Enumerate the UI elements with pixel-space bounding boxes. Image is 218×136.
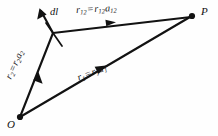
vector-r12-shaft xyxy=(53,17,191,33)
diagram-canvas xyxy=(0,0,218,136)
vector-r2-shaft xyxy=(20,33,53,117)
vector-diagram: P O dl r12=r12a12 r1=r1a1 r2=r2a2 xyxy=(0,0,218,136)
label-r12-unit-sub: 12 xyxy=(110,7,117,14)
vector-r2 xyxy=(20,33,53,117)
point-marker-o xyxy=(17,114,23,120)
vector-r12 xyxy=(53,17,191,33)
label-r12-lhs-sub: 12 xyxy=(80,8,87,15)
label-dl-l: l xyxy=(55,6,58,17)
label-dl: dl xyxy=(50,7,58,18)
label-point-o: O xyxy=(7,119,15,130)
label-point-p: P xyxy=(201,6,208,17)
label-r12: r12=r12a12 xyxy=(76,3,117,17)
point-marker-p xyxy=(189,13,195,19)
